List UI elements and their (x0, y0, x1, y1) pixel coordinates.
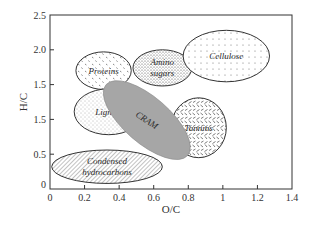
region-label: Cellulose (209, 51, 243, 61)
y-tick-label: 2.0 (34, 44, 47, 55)
van-krevelen-chart: ProteinsAminosugarsCelluloseLigninsTanni… (0, 0, 314, 231)
y-axis-label: H/C (17, 93, 29, 111)
y-tick-label: 0 (41, 179, 46, 190)
region-label: hydrocarbons (82, 167, 132, 177)
region-label: Condensed (87, 156, 127, 166)
x-tick-label: 0.4 (113, 192, 126, 203)
region-label: Amino (150, 57, 175, 67)
x-tick-label: 0 (48, 192, 53, 203)
region-label: Proteins (87, 66, 119, 76)
region-cellulose: Cellulose (183, 30, 269, 82)
x-tick-label: 0.2 (78, 192, 91, 203)
region-condensed-hydrocarbons: Condensedhydrocarbons (52, 150, 163, 183)
x-tick-label: 1.2 (251, 192, 264, 203)
region-label: sugars (150, 68, 175, 78)
y-tick-label: 0.5 (34, 149, 47, 160)
y-tick-label: 1.5 (34, 114, 47, 125)
x-tick-label: 1.4 (286, 192, 299, 203)
x-tick-label: 0.8 (182, 192, 195, 203)
x-axis-label: O/C (162, 203, 180, 215)
x-tick-label: 1 (220, 192, 225, 203)
x-tick-label: 0.6 (147, 192, 160, 203)
y-tick-label: 2.5 (34, 10, 47, 21)
region-label: Tannins (185, 123, 214, 133)
region-ellipses: ProteinsAminosugarsCelluloseLigninsTanni… (52, 30, 270, 183)
y-tick-label: 1.5 (34, 79, 47, 90)
